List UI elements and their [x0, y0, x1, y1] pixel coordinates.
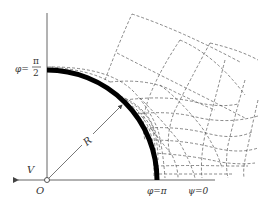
origin-label: O	[36, 185, 44, 196]
origin-marker	[45, 178, 50, 183]
phi-half-pi-denominator: 2	[33, 68, 39, 78]
phi-half-pi-prefix: φ=	[15, 64, 29, 74]
velocity-label: V	[27, 164, 36, 175]
phi-half-pi-numerator: π	[33, 56, 39, 66]
phi-pi-label: φ=π	[147, 186, 168, 196]
flow-diagram: R O V φ= π 2 φ=π ψ=0	[0, 0, 261, 207]
psi-zero-label: ψ=0	[188, 186, 209, 196]
